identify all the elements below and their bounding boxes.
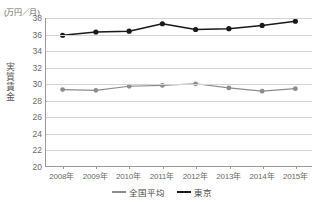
- gridline: [46, 84, 312, 85]
- y-axis-title: 実質賃金: [3, 62, 16, 102]
- data-point: [260, 89, 265, 94]
- x-axis-tick-mark: [63, 166, 64, 169]
- x-axis-tick-mark: [196, 166, 197, 169]
- data-point: [293, 19, 298, 24]
- x-axis-tick-labels: 2008年2009年2010年2011年2012年2013年2014年2015年: [45, 170, 312, 184]
- x-axis-tick-label: 2013年: [216, 170, 241, 181]
- legend-item-tokyo[interactable]: 東京: [177, 186, 212, 198]
- x-axis-tick-label: 2012年: [183, 170, 208, 181]
- y-axis-tick-label: 22: [24, 145, 42, 155]
- data-point: [160, 21, 165, 26]
- x-axis-tick-label: 2015年: [283, 170, 308, 181]
- data-point: [127, 29, 132, 34]
- x-axis-tick-label: 2011年: [150, 170, 174, 181]
- y-axis-tick-label: 30: [24, 79, 42, 89]
- x-axis-tick-mark: [163, 166, 164, 169]
- data-point: [193, 27, 198, 32]
- x-axis-tick-label: 2010年: [116, 170, 141, 181]
- chart-legend: 全国平均東京: [0, 186, 324, 198]
- plot-area: [45, 18, 312, 167]
- gridline: [46, 18, 312, 19]
- gridline: [46, 134, 312, 135]
- x-axis-tick-mark: [230, 166, 231, 169]
- y-axis-tick-label: 28: [24, 96, 42, 106]
- chart-container: (万円／月) 実質賃金 20222426283032343638 2008年20…: [0, 0, 324, 202]
- x-axis-tick-label: 2014年: [250, 170, 275, 181]
- gridline: [46, 51, 312, 52]
- data-point: [260, 23, 265, 28]
- legend-line-icon: [177, 191, 191, 193]
- gridline: [46, 101, 312, 102]
- data-point: [226, 26, 231, 31]
- legend-line-icon: [112, 191, 126, 193]
- y-axis-tick-label: 26: [24, 112, 42, 122]
- data-point: [226, 86, 231, 91]
- x-axis-tick-mark: [96, 166, 97, 169]
- data-point: [293, 86, 298, 91]
- x-axis-tick-mark: [296, 166, 297, 169]
- legend-label: 東京: [194, 186, 212, 198]
- y-axis-tick-labels: 20222426283032343638: [18, 0, 42, 202]
- y-axis-tick-label: 36: [24, 30, 42, 40]
- data-point: [60, 87, 65, 92]
- x-axis-tick-label: 2008年: [49, 170, 74, 181]
- gridline: [46, 117, 312, 118]
- legend-item-national-average[interactable]: 全国平均: [112, 186, 166, 198]
- x-axis-tick-mark: [263, 166, 264, 169]
- series-national-average: [60, 81, 298, 93]
- data-point: [93, 88, 98, 93]
- gridline: [46, 150, 312, 151]
- x-axis-tick-label: 2009年: [83, 170, 108, 181]
- y-axis-tick-label: 20: [24, 162, 42, 172]
- y-axis-tick-label: 24: [24, 129, 42, 139]
- x-axis-tick-mark: [129, 166, 130, 169]
- legend-label: 全国平均: [129, 186, 166, 198]
- series-layer: [46, 18, 312, 166]
- gridline: [46, 35, 312, 36]
- y-axis-tick-label: 34: [24, 46, 42, 56]
- gridline: [46, 68, 312, 69]
- y-axis-tick-label: 32: [24, 63, 42, 73]
- y-axis-tick-label: 38: [24, 13, 42, 23]
